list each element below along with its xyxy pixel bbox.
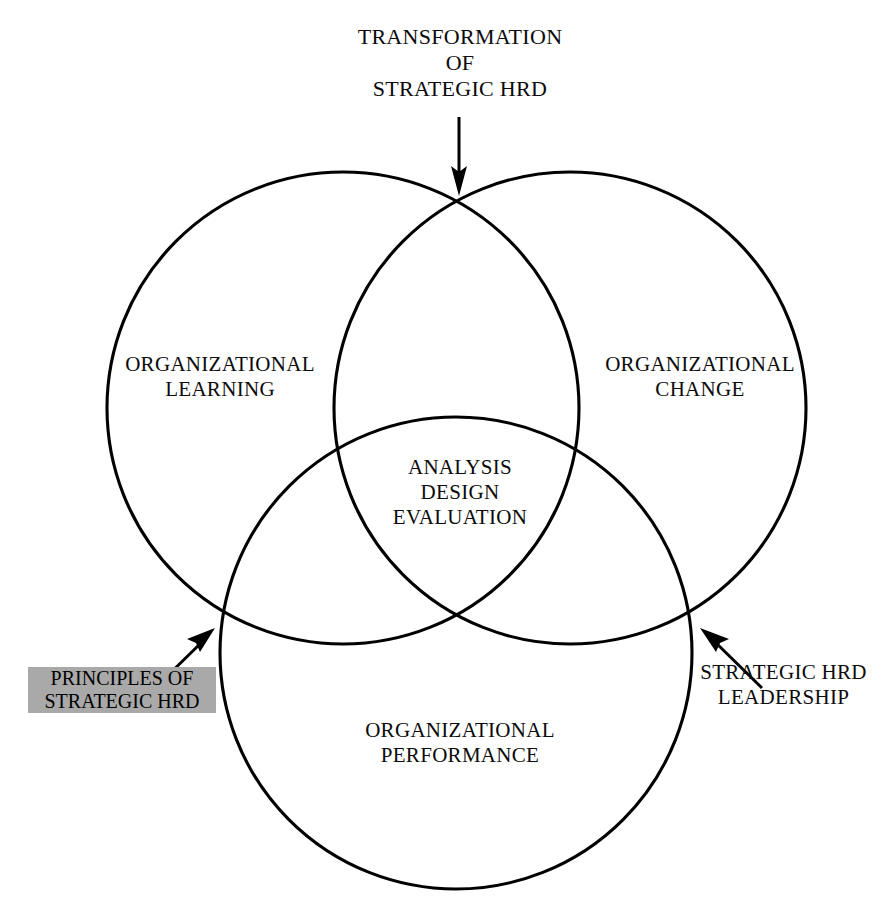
- highlight-box-principles-of-strategic-hrd: PRINCIPLES OF STRATEGIC HRD: [28, 667, 216, 713]
- circle-organizational-learning: [107, 172, 579, 644]
- label-organizational-performance: ORGANIZATIONAL PERFORMANCE: [335, 718, 585, 768]
- highlight-box-label: PRINCIPLES OF STRATEGIC HRD: [44, 667, 199, 713]
- label-center-intersection: ANALYSIS DESIGN EVALUATION: [360, 455, 560, 529]
- label-strategic-hrd-leadership: STRATEGIC HRD LEADERSHIP: [681, 660, 886, 710]
- venn-diagram: TRANSFORMATION OF STRATEGIC HRD ORGANIZA…: [0, 0, 891, 915]
- label-organizational-learning: ORGANIZATIONAL LEARNING: [105, 352, 335, 402]
- arrow-top-down-icon: [451, 117, 467, 196]
- circle-organizational-change: [334, 172, 806, 644]
- diagram-title-caption: TRANSFORMATION OF STRATEGIC HRD: [325, 24, 595, 102]
- label-organizational-change: ORGANIZATIONAL CHANGE: [585, 352, 815, 402]
